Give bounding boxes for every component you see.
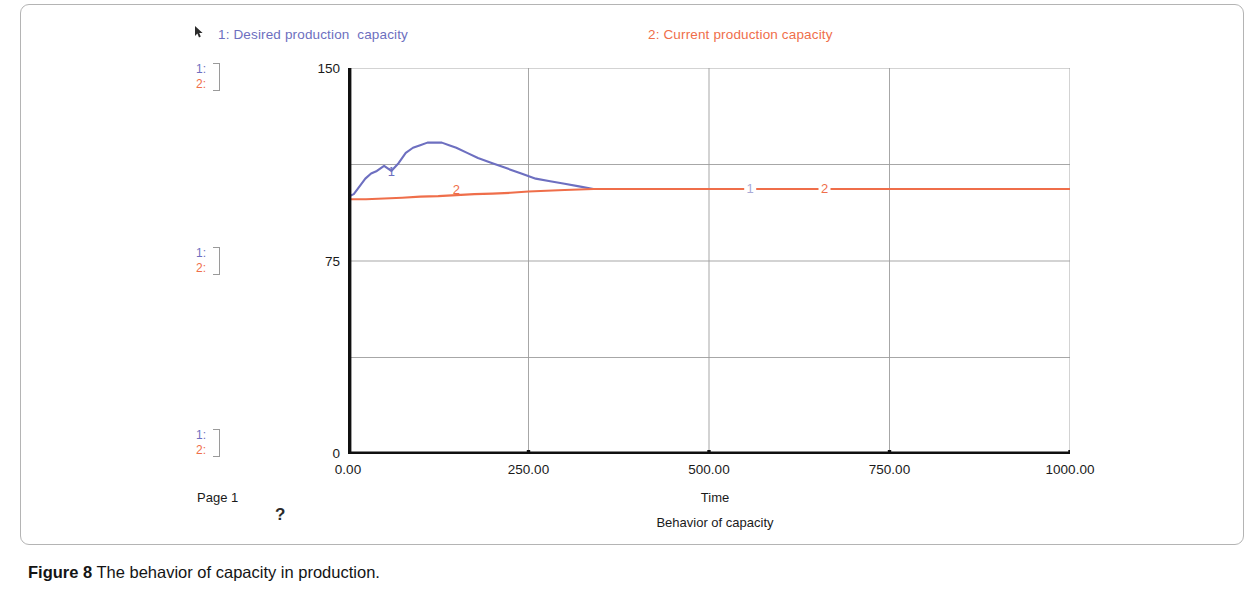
legend-entry-desired-production-capacity: 1: Desired production capacity [218, 27, 408, 42]
chart-title: Behavior of capacity [600, 515, 830, 530]
series-inline-label-far: 1 [747, 181, 754, 196]
y-axis-tick-label: 0 [294, 446, 340, 461]
chart-legend: 1: Desired production capacity 2: Curren… [190, 24, 1090, 48]
legend-entry-current-production-capacity: 2: Current production capacity [648, 27, 833, 42]
x-axis-tick-label: 500.00 [669, 462, 749, 477]
help-marker: ? [275, 505, 285, 525]
x-axis-title: Time [640, 490, 790, 505]
chart-plot-area: 1212 [348, 68, 1070, 454]
cursor-icon [194, 26, 205, 38]
y-axis-tick-label: 150 [294, 61, 340, 76]
figure-caption: Figure 8 The behavior of capacity in pro… [28, 563, 380, 582]
chart-canvas: 1212 [348, 68, 1070, 454]
x-axis-tick-label: 750.00 [850, 462, 930, 477]
x-axis-tick-label: 1000.00 [1030, 462, 1110, 477]
series-inline-label-2: 2 [453, 182, 460, 197]
series-inline-label-far: 2 [821, 181, 828, 196]
scale-bracket-bottom-brace [213, 429, 220, 457]
series-inline-label-1: 1 [388, 164, 395, 179]
x-axis-tick-label: 0.00 [308, 462, 388, 477]
page-label: Page 1 [197, 490, 238, 505]
scale-bracket-top: 1: 2: [196, 62, 230, 96]
scale-bracket-top-brace [213, 63, 220, 91]
scale-bracket-middle-brace [213, 247, 220, 275]
x-axis-tick-label: 250.00 [489, 462, 569, 477]
figure-caption-label: Figure 8 [28, 563, 92, 581]
scale-bracket-bottom: 1: 2: [196, 428, 230, 462]
scale-bracket-middle: 1: 2: [196, 246, 230, 280]
figure-caption-text: The behavior of capacity in production. [92, 563, 380, 581]
y-axis-tick-label: 75 [294, 254, 340, 269]
